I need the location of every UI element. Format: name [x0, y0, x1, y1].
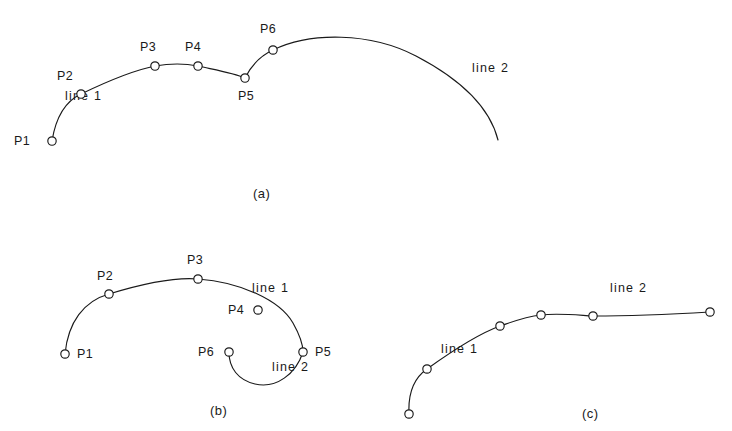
point-label-a-P2: P2: [57, 69, 73, 83]
point-marker-b-P5: [299, 348, 307, 356]
curve-label-a-line-2: line 2: [472, 61, 509, 75]
point-label-b-P2: P2: [97, 269, 113, 283]
panel-caption-a: (a): [253, 186, 270, 201]
curve-label-b-line-1: line 1: [252, 281, 289, 295]
point-marker-b-P2: [105, 290, 113, 298]
point-label-a-P3: P3: [140, 40, 156, 54]
point-label-a-P6: P6: [260, 22, 276, 36]
point-label-b-P1: P1: [77, 347, 93, 361]
point-label-a-P4: P4: [185, 40, 201, 54]
figure-container: line 1line 2P1P2P3P4P5P6(a)line 1line 2P…: [0, 0, 732, 431]
point-marker-b-P4: [254, 306, 262, 314]
point-marker-a-P5: [241, 74, 249, 82]
point-marker-c-C6: [706, 308, 714, 316]
point-label-b-P5: P5: [315, 345, 331, 359]
point-label-a-P5: P5: [238, 89, 254, 103]
curve-c-line-1: [409, 315, 541, 414]
point-marker-b-P6: [225, 348, 233, 356]
panel-a: line 1line 2P1P2P3P4P5P6(a): [14, 22, 509, 201]
point-marker-c-C4: [537, 311, 545, 319]
diagram-layers: line 1line 2P1P2P3P4P5P6(a)line 1line 2P…: [14, 22, 714, 421]
point-marker-a-P3: [151, 62, 159, 70]
point-label-a-P1: P1: [14, 134, 30, 148]
point-marker-a-P2: [77, 90, 85, 98]
curve-label-c-line-1: line 1: [441, 342, 478, 356]
panel-b: line 1line 2P1P2P3P4P5P6(b): [61, 253, 331, 418]
point-marker-b-P1: [61, 350, 69, 358]
point-marker-c-C1: [405, 410, 413, 418]
point-label-b-P4: P4: [228, 303, 244, 317]
curve-diagram: line 1line 2P1P2P3P4P5P6(a)line 1line 2P…: [0, 0, 732, 431]
point-marker-a-P4: [194, 62, 202, 70]
point-marker-c-C5: [589, 312, 597, 320]
point-marker-a-P6: [269, 46, 277, 54]
curve-c-line-2: [541, 312, 710, 316]
point-label-b-P6: P6: [198, 345, 214, 359]
panel-c: line 1line 2(c): [405, 281, 714, 421]
point-label-b-P3: P3: [187, 253, 203, 267]
panel-caption-b: (b): [210, 403, 227, 418]
curve-label-c-line-2: line 2: [610, 281, 647, 295]
curve-label-b-line-2: line 2: [272, 360, 309, 374]
panel-caption-c: (c): [582, 406, 599, 421]
point-marker-c-C2: [423, 365, 431, 373]
point-marker-b-P3: [194, 275, 202, 283]
curve-a-line-2: [245, 37, 498, 140]
point-marker-a-P1: [48, 137, 56, 145]
point-marker-c-C3: [496, 322, 504, 330]
